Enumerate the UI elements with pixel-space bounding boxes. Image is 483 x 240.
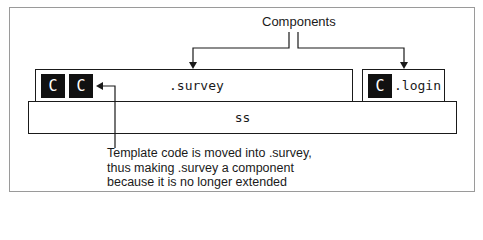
annotation-connector xyxy=(101,86,115,148)
annotation-line-3: because it is no longer extended xyxy=(107,175,312,190)
annotation-text: Template code is moved into .survey, thu… xyxy=(107,146,312,190)
arrow-down-icon xyxy=(189,62,197,69)
annotation-line-2: thus making .survey a component xyxy=(107,161,312,176)
connector-to-survey xyxy=(193,32,289,63)
connector-to-login xyxy=(298,32,404,63)
arrow-down-icon xyxy=(400,62,408,69)
arrow-left-icon xyxy=(96,82,103,90)
annotation-line-1: Template code is moved into .survey, xyxy=(107,146,312,161)
